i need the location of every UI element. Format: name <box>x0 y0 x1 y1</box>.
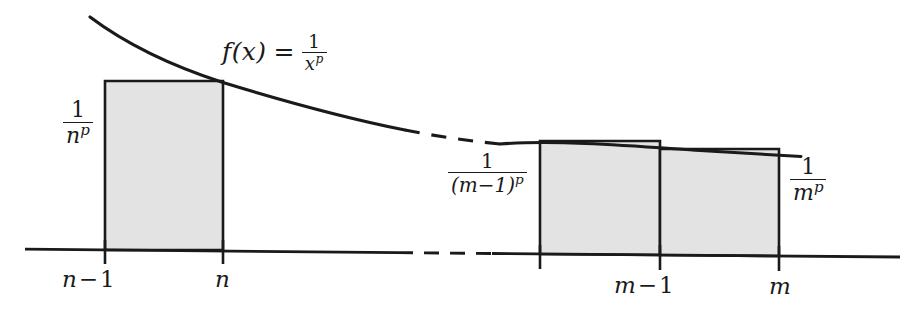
height-label-middle-numerator: 1 <box>448 151 527 173</box>
height-label-left: 1np <box>63 99 93 147</box>
axis-label-n-var: n <box>215 266 230 292</box>
height-label-right-denominator-exponent: p <box>814 178 824 196</box>
function-label-denominator-exponent: p <box>315 52 323 66</box>
axis-label-m-minus-1-var: m <box>614 272 636 298</box>
height-label-right-denominator-base: m <box>793 180 814 205</box>
x-axis-left-segment <box>25 249 398 252</box>
height-label-middle-fraction: 1(m−1)p <box>448 151 527 195</box>
height-label-right-fraction: 1mp <box>790 156 826 204</box>
axis-label-n-minus-1-number: 1 <box>100 266 115 292</box>
height-label-middle-denominator-base: (m−1) <box>451 173 515 197</box>
function-label-fx: f(x) <box>222 37 266 66</box>
axis-label-n-minus-1-operator: − <box>77 266 100 292</box>
integral-test-figure: f(x)=1xp 1np 1(m−1)p 1mp n−1 n m−1 m <box>0 0 915 319</box>
height-label-left-denominator-exponent: p <box>80 121 90 139</box>
function-label-numerator: 1 <box>302 33 327 53</box>
left-rectangle <box>105 81 223 250</box>
x-axis-dashed-gap <box>398 253 492 254</box>
height-label-right: 1mp <box>790 156 826 204</box>
height-label-left-fraction: 1np <box>63 99 93 147</box>
function-label-denominator-base: x <box>305 53 316 74</box>
height-label-middle-denominator: (m−1)p <box>448 173 527 195</box>
height-label-left-denominator-base: n <box>66 123 80 148</box>
function-label-denominator: xp <box>302 53 327 73</box>
function-curve-dashed-gap <box>405 130 500 144</box>
height-label-middle-denominator-exponent: p <box>515 171 524 187</box>
height-label-left-numerator: 1 <box>63 99 93 123</box>
axis-label-n: n <box>215 268 230 291</box>
axis-label-n-minus-1-var: n <box>62 266 77 292</box>
height-label-right-denominator: mp <box>790 180 826 204</box>
axis-label-n-minus-1: n−1 <box>62 268 115 291</box>
axis-label-m-var: m <box>769 273 791 299</box>
function-label-fraction: 1xp <box>302 33 327 73</box>
axis-label-m-minus-1-number: 1 <box>659 272 674 298</box>
height-label-middle: 1(m−1)p <box>448 151 527 195</box>
function-label-equals: = <box>266 37 301 66</box>
rectangles-group <box>105 81 779 256</box>
right-rectangle <box>660 149 779 256</box>
axis-label-m-minus-1-operator: − <box>636 272 659 298</box>
height-label-right-numerator: 1 <box>790 156 826 180</box>
axis-label-m-minus-1: m−1 <box>614 274 674 297</box>
height-label-left-denominator: np <box>63 123 93 147</box>
x-axis-right-segment <box>492 254 900 258</box>
axis-label-m: m <box>769 275 791 298</box>
function-label: f(x)=1xp <box>222 33 327 73</box>
middle-rectangle <box>540 141 660 255</box>
